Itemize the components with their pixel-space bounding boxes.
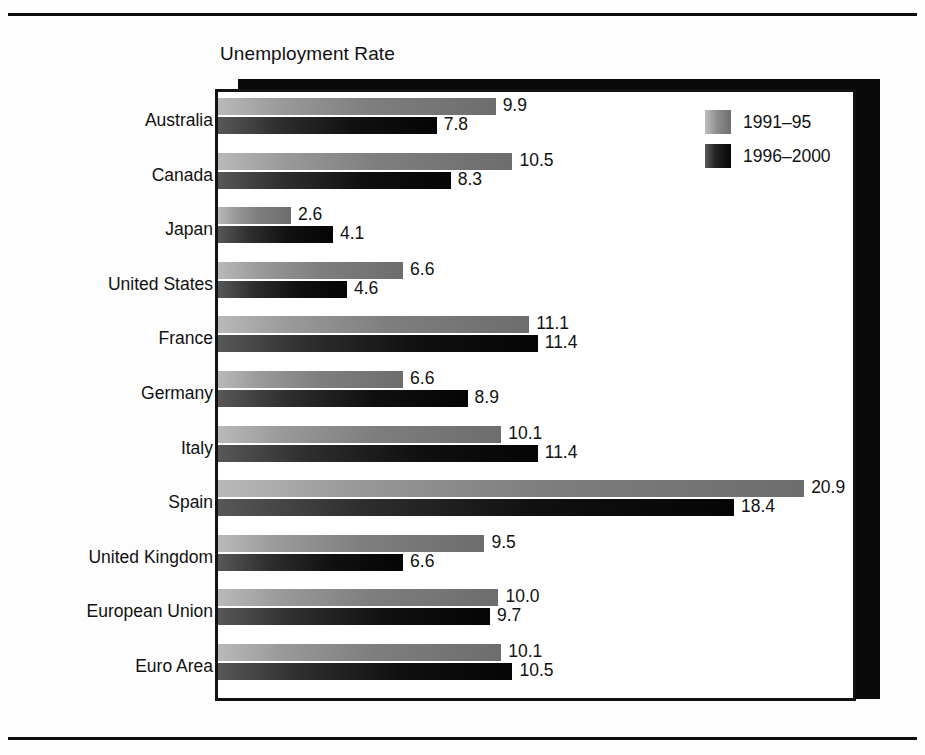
- bar-0: [218, 426, 501, 443]
- bar-value-label: 18.4: [741, 498, 775, 515]
- bar-value-label: 11.4: [545, 334, 578, 351]
- bar-value-label: 2.6: [298, 206, 322, 223]
- bar-1: [218, 554, 403, 571]
- bar-rows-container: Australia9.97.8Canada10.58.3Japan2.64.1U…: [0, 89, 925, 701]
- legend-swatch-icon: [705, 110, 731, 134]
- legend-item: 1996–2000: [705, 139, 831, 173]
- bar-1: [218, 608, 490, 625]
- bar-0: [218, 480, 804, 497]
- bar-value-label: 8.9: [475, 389, 499, 406]
- bar-row: United Kingdom9.56.6: [0, 534, 925, 580]
- bar-row: European Union10.09.7: [0, 588, 925, 634]
- legend-label: 1996–2000: [743, 146, 831, 167]
- bar-0: [218, 535, 484, 552]
- bar-value-label: 10.0: [505, 588, 539, 605]
- bar-value-label: 10.1: [508, 643, 542, 660]
- category-label: Spain: [168, 492, 213, 513]
- legend-item: 1991–95: [705, 105, 831, 139]
- bar-group: 6.64.6: [218, 261, 918, 307]
- bar-group: 20.918.4: [218, 479, 918, 525]
- chart-legend: 1991–951996–2000: [705, 105, 831, 173]
- bar-value-label: 10.5: [519, 662, 553, 679]
- category-label: United States: [108, 273, 213, 294]
- chart-page: Unemployment Rate Australia9.97.8Canada1…: [0, 0, 925, 755]
- bar-1: [218, 226, 333, 243]
- bar-value-label: 11.1: [536, 315, 569, 332]
- bar-1: [218, 117, 437, 134]
- category-label: France: [159, 328, 213, 349]
- bar-value-label: 11.4: [545, 444, 578, 461]
- bar-group: 10.110.5: [218, 643, 918, 689]
- bar-1: [218, 281, 347, 298]
- bar-row: United States6.64.6: [0, 261, 925, 307]
- bar-1: [218, 172, 451, 189]
- bottom-divider-rule: [8, 737, 917, 740]
- bar-1: [218, 390, 468, 407]
- bar-value-label: 8.3: [458, 171, 482, 188]
- bar-group: 10.09.7: [218, 588, 918, 634]
- bar-row: Germany6.68.9: [0, 370, 925, 416]
- category-label: United Kingdom: [88, 546, 213, 567]
- bar-1: [218, 499, 734, 516]
- category-label: Canada: [152, 164, 213, 185]
- bar-0: [218, 371, 403, 388]
- bar-0: [218, 153, 512, 170]
- category-label: Australia: [145, 110, 213, 131]
- bar-row: Euro Area10.110.5: [0, 643, 925, 689]
- bar-value-label: 7.8: [444, 116, 468, 133]
- bar-value-label: 9.7: [497, 607, 521, 624]
- category-label: European Union: [87, 601, 213, 622]
- bar-value-label: 6.6: [410, 261, 434, 278]
- bar-0: [218, 262, 403, 279]
- chart-title: Unemployment Rate: [220, 43, 395, 65]
- legend-swatch-icon: [705, 144, 731, 168]
- bar-value-label: 10.5: [519, 152, 553, 169]
- bar-row: Japan2.64.1: [0, 206, 925, 252]
- bar-value-label: 9.9: [503, 97, 527, 114]
- bar-group: 10.111.4: [218, 425, 918, 471]
- bar-0: [218, 644, 501, 661]
- bar-row: Italy10.111.4: [0, 425, 925, 471]
- bar-group: 2.64.1: [218, 206, 918, 252]
- category-label: Italy: [181, 437, 213, 458]
- bar-0: [218, 316, 529, 333]
- bar-0: [218, 207, 291, 224]
- bar-row: Spain20.918.4: [0, 479, 925, 525]
- bar-value-label: 9.5: [491, 534, 515, 551]
- bar-0: [218, 589, 498, 606]
- bar-value-label: 4.1: [340, 225, 364, 242]
- bar-row: France11.111.4: [0, 315, 925, 361]
- top-divider-rule: [8, 13, 917, 16]
- bar-value-label: 6.6: [410, 553, 434, 570]
- bar-value-label: 20.9: [811, 479, 845, 496]
- bar-value-label: 6.6: [410, 370, 434, 387]
- legend-label: 1991–95: [743, 112, 811, 133]
- category-label: Euro Area: [135, 656, 213, 677]
- bar-value-label: 10.1: [508, 425, 542, 442]
- bar-group: 6.68.9: [218, 370, 918, 416]
- bar-group: 9.56.6: [218, 534, 918, 580]
- bar-value-label: 4.6: [354, 280, 378, 297]
- bar-0: [218, 98, 496, 115]
- bar-group: 11.111.4: [218, 315, 918, 361]
- category-label: Japan: [165, 219, 213, 240]
- category-label: Germany: [141, 383, 213, 404]
- bar-1: [218, 445, 538, 462]
- bar-1: [218, 663, 512, 680]
- bar-1: [218, 335, 538, 352]
